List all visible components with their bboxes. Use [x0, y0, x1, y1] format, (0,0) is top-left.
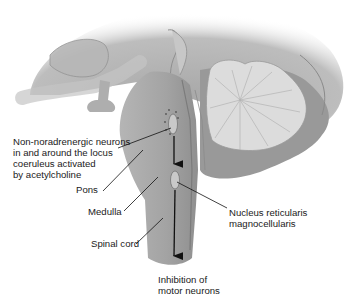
label-pons: Pons — [76, 184, 98, 195]
label-nucleus-reticularis: Nucleus reticularis magnocellularis — [229, 207, 307, 229]
brainstem — [120, 72, 205, 265]
label-medulla: Medulla — [88, 206, 122, 217]
label-locus-coeruleus: Non-noradrenergic neurons in and around … — [13, 136, 130, 180]
label-inhibition: Inhibition of motor neurons — [158, 274, 220, 294]
nucleus-reticularis-magnocellularis — [171, 171, 180, 189]
label-spinal-cord: Spinal cord — [91, 238, 139, 249]
